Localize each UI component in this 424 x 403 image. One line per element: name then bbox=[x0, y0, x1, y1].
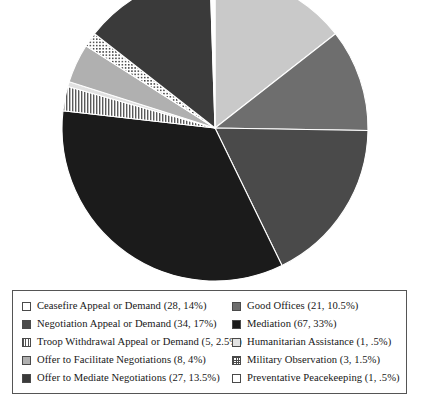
legend-item[interactable]: Humanitarian Assistance (1, .5%) bbox=[232, 333, 406, 351]
legend-item[interactable]: Offer to Mediate Negotiations (27, 13.5%… bbox=[22, 369, 226, 387]
legend-item-label: Negotiation Appeal or Demand (34, 17%) bbox=[37, 318, 217, 330]
legend-item[interactable]: Negotiation Appeal or Demand (34, 17%) bbox=[22, 315, 226, 333]
legend-swatch-icon bbox=[232, 356, 241, 365]
legend-item[interactable]: Troop Withdrawal Appeal or Demand (5, 2.… bbox=[22, 333, 226, 351]
legend-swatch-icon bbox=[22, 320, 31, 329]
pie-slice-group bbox=[62, 0, 368, 281]
legend-item[interactable]: Offer to Facilitate Negotiations (8, 4%) bbox=[22, 351, 226, 369]
legend-item[interactable]: Good Offices (21, 10.5%) bbox=[232, 297, 406, 315]
legend-item[interactable]: Ceasefire Appeal or Demand (28, 14%) bbox=[22, 297, 226, 315]
pie-chart-svg bbox=[0, 0, 424, 285]
legend-swatch-icon bbox=[22, 374, 31, 383]
legend-item-label: Offer to Mediate Negotiations (27, 13.5%… bbox=[37, 372, 220, 384]
pie-chart-area bbox=[0, 0, 424, 285]
legend-item[interactable]: Mediation (67, 33%) bbox=[232, 315, 406, 333]
legend-item-label: Military Observation (3, 1.5%) bbox=[247, 354, 380, 366]
legend-column-1: Ceasefire Appeal or Demand (28, 14%)Nego… bbox=[13, 297, 226, 387]
legend-swatch-icon bbox=[22, 338, 31, 347]
legend-item[interactable]: Preventative Peacekeeping (1, .5%) bbox=[232, 369, 406, 387]
legend-item-label: Good Offices (21, 10.5%) bbox=[247, 300, 358, 312]
legend-swatch-icon bbox=[232, 374, 241, 383]
pie-chart-figure: Ceasefire Appeal or Demand (28, 14%)Nego… bbox=[0, 0, 424, 403]
legend-item-label: Preventative Peacekeeping (1, .5%) bbox=[247, 372, 400, 384]
legend-swatch-icon bbox=[232, 302, 241, 311]
legend-item-label: Humanitarian Assistance (1, .5%) bbox=[247, 336, 391, 348]
chart-legend: Ceasefire Appeal or Demand (28, 14%)Nego… bbox=[12, 290, 407, 394]
legend-swatch-icon bbox=[232, 338, 241, 347]
legend-item-label: Offer to Facilitate Negotiations (8, 4%) bbox=[37, 354, 206, 366]
legend-swatch-icon bbox=[232, 320, 241, 329]
legend-column-2: Good Offices (21, 10.5%)Mediation (67, 3… bbox=[226, 297, 406, 387]
legend-item[interactable]: Military Observation (3, 1.5%) bbox=[232, 351, 406, 369]
legend-item-label: Ceasefire Appeal or Demand (28, 14%) bbox=[37, 300, 206, 312]
legend-swatch-icon bbox=[22, 302, 31, 311]
legend-swatch-icon bbox=[22, 356, 31, 365]
legend-item-label: Troop Withdrawal Appeal or Demand (5, 2.… bbox=[37, 336, 242, 348]
legend-item-label: Mediation (67, 33%) bbox=[247, 318, 337, 330]
legend-columns: Ceasefire Appeal or Demand (28, 14%)Nego… bbox=[13, 291, 406, 393]
